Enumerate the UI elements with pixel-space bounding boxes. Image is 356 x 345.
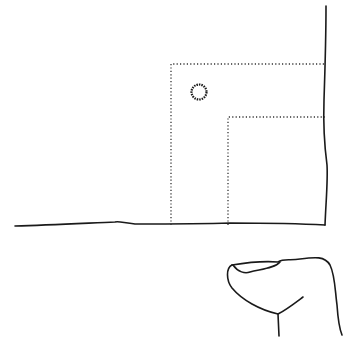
floor-line [15, 222, 325, 226]
wall-line [324, 6, 328, 225]
outer-dotted-rectangle [171, 64, 325, 225]
line-drawing [0, 0, 356, 345]
figure-outline [228, 258, 343, 336]
illustration-canvas [0, 0, 356, 345]
inner-dotted-rectangle [228, 117, 325, 225]
small-circle-icon [192, 85, 207, 100]
